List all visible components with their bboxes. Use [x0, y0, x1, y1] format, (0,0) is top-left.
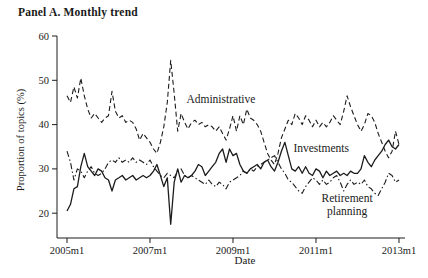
x-tick-label: 2013m1: [382, 245, 416, 256]
annotation-investments: Investments: [293, 142, 349, 154]
x-tick-label: 2005m1: [50, 245, 84, 256]
y-tick-label: 50: [39, 75, 50, 86]
panel-a-monthly-trend-figure: Panel A. Monthly trend Proportion of top…: [0, 0, 428, 278]
x-tick-label: 2007m1: [133, 245, 167, 256]
annotation-retirement-planning: Retirement: [322, 192, 374, 204]
annotation-retirement-planning: planning: [327, 205, 367, 218]
y-tick-label: 20: [39, 208, 50, 219]
y-tick-label: 40: [39, 119, 50, 130]
annotation-administrative: Administrative: [186, 93, 255, 105]
x-tick-label: 2011m1: [299, 245, 333, 256]
series-administrative-line: [67, 60, 399, 164]
x-tick-label: 2009m1: [216, 245, 250, 256]
y-tick-label: 60: [39, 31, 50, 42]
y-tick-label: 30: [39, 163, 50, 174]
line-chart-canvas: 20304050602005m12007m12009m12011m12013m1…: [0, 0, 428, 278]
